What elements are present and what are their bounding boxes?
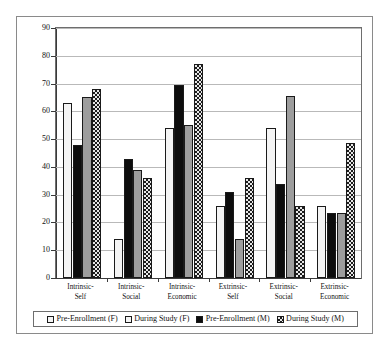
x-axis-label-line: Economic [157, 293, 208, 303]
legend-item[interactable]: During Study (M) [277, 315, 344, 323]
legend-item[interactable]: Pre-Enrollment (F) [47, 315, 118, 323]
category-separator [158, 278, 159, 282]
plot-area: 0102030405060708090 [56, 28, 361, 278]
black-swatch [196, 316, 203, 323]
bar [124, 159, 133, 278]
bar [133, 170, 142, 278]
chart-card: 0102030405060708090 Intrinsic-SelfIntrin… [16, 16, 373, 334]
y-tick-label-80: 80 [22, 52, 50, 60]
x-axis-label: Extrinsic-Economic [309, 283, 360, 302]
category-separator [107, 278, 108, 282]
y-tick-label-40: 40 [22, 163, 50, 171]
x-axis-label-line: Intrinsic- [55, 283, 106, 293]
bar [276, 184, 285, 278]
bar [286, 96, 295, 278]
x-axis-label-line: Self [55, 293, 106, 303]
bar-group [310, 28, 361, 278]
bar [295, 206, 304, 278]
x-axis-labels: Intrinsic-SelfIntrinsic-SocialIntrinsic-… [55, 283, 362, 309]
y-tick-label-50: 50 [22, 135, 50, 143]
white-swatch [47, 316, 54, 323]
bar [235, 239, 244, 278]
legend-item[interactable]: Pre-Enrollment (M) [196, 315, 269, 323]
legend-label: Pre-Enrollment (F) [57, 315, 118, 323]
x-axis-label-line: Self [208, 293, 259, 303]
x-axis-label: Extrinsic-Social [258, 283, 309, 302]
plot-frame: 0102030405060708090 [55, 27, 362, 279]
bar [346, 143, 355, 278]
bar [266, 128, 275, 278]
legend-label: During Study (M) [286, 315, 344, 323]
bar [174, 85, 183, 278]
bar [82, 97, 91, 278]
y-tick-label-0: 0 [22, 274, 50, 282]
bar [143, 178, 152, 278]
chart-root: 0102030405060708090 Intrinsic-SelfIntrin… [0, 0, 391, 345]
y-tick-label-30: 30 [22, 191, 50, 199]
bar [63, 103, 72, 278]
bar [216, 206, 225, 278]
x-axis-label: Intrinsic-Social [106, 283, 157, 302]
x-axis-label-line: Social [106, 293, 157, 303]
y-tick-label-90: 90 [22, 24, 50, 32]
bar-group [209, 28, 260, 278]
x-axis-label-line: Social [258, 293, 309, 303]
x-axis-label-line: Economic [309, 293, 360, 303]
x-axis-label-line: Extrinsic- [309, 283, 360, 293]
bar-group [259, 28, 310, 278]
x-axis-label: Intrinsic-Economic [157, 283, 208, 302]
legend-label: During Study (F) [134, 315, 189, 323]
x-axis-label: Extrinsic-Self [208, 283, 259, 302]
legend-item[interactable]: During Study (F) [125, 315, 190, 323]
bar-group [107, 28, 158, 278]
white-swatch [125, 316, 132, 323]
y-tick-label-10: 10 [22, 246, 50, 254]
bar [225, 192, 234, 278]
category-separator [310, 278, 311, 282]
x-axis-label-line: Intrinsic- [157, 283, 208, 293]
bar [327, 213, 336, 278]
bar [184, 125, 193, 278]
x-axis-label-line: Extrinsic- [258, 283, 309, 293]
category-separator [259, 278, 260, 282]
y-tick-label-60: 60 [22, 107, 50, 115]
bar-group [158, 28, 209, 278]
x-axis-label-line: Extrinsic- [208, 283, 259, 293]
bar [317, 206, 326, 278]
bar [92, 89, 101, 278]
y-tick-mark-0 [51, 278, 56, 279]
bar [165, 128, 174, 278]
category-separator [209, 278, 210, 282]
bar-group [56, 28, 107, 278]
bar [114, 239, 123, 278]
bar [194, 64, 203, 278]
y-tick-label-20: 20 [22, 218, 50, 226]
checkered-swatch [277, 316, 284, 323]
legend-label: Pre-Enrollment (M) [206, 315, 270, 323]
chart-legend: Pre-Enrollment (F)During Study (F)Pre-En… [33, 311, 358, 327]
bar [337, 213, 346, 278]
bar [73, 145, 82, 278]
y-tick-label-70: 70 [22, 80, 50, 88]
x-axis-label: Intrinsic-Self [55, 283, 106, 302]
x-axis-label-line: Intrinsic- [106, 283, 157, 293]
bar [245, 178, 254, 278]
